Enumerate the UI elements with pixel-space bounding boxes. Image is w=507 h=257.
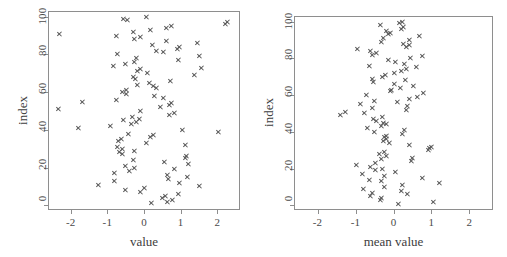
plot-frame-left: [48, 11, 240, 210]
x-tick-mark: [394, 210, 395, 214]
y-tick-label: 80: [37, 45, 48, 65]
x-tick-mark: [469, 210, 470, 214]
y-tick-label: 20: [283, 159, 294, 179]
x-tick-label: 2: [467, 217, 473, 228]
y-axis-title-right: index: [262, 93, 275, 133]
y-tick-label: 60: [283, 86, 294, 106]
y-tick-label: 40: [37, 120, 48, 140]
y-tick-label: 100: [37, 7, 48, 27]
x-tick-label: 0: [391, 217, 397, 228]
x-tick-mark: [356, 210, 357, 214]
y-axis-title-left: index: [16, 90, 29, 130]
y-tick-label: 60: [37, 83, 48, 103]
x-tick-label: 1: [178, 217, 184, 228]
x-tick-mark: [107, 210, 108, 214]
x-tick-mark: [431, 210, 432, 214]
x-tick-mark: [144, 210, 145, 214]
x-axis-title-left: value: [130, 235, 158, 248]
y-tick-label: 80: [283, 49, 294, 69]
x-tick-mark: [181, 210, 182, 214]
x-tick-label: -2: [313, 217, 323, 228]
y-tick-label: 0: [37, 196, 48, 216]
x-tick-mark: [318, 210, 319, 214]
y-tick-label: 0: [283, 196, 294, 216]
x-tick-mark: [217, 210, 218, 214]
y-tick-label: 20: [37, 158, 48, 178]
x-tick-label: -2: [66, 217, 76, 228]
scatter-panel-value: -2-1012020406080100 value index: [0, 0, 253, 257]
scatter-panel-mean-value: -2-1012020406080100 mean value index: [253, 0, 506, 257]
x-tick-label: 1: [429, 217, 435, 228]
x-tick-label: -1: [103, 217, 113, 228]
x-axis-title-right: mean value: [364, 235, 424, 248]
figure-container: -2-1012020406080100 value index -2-10120…: [0, 0, 507, 257]
x-tick-label: 2: [214, 217, 220, 228]
y-tick-label: 40: [283, 122, 294, 142]
x-tick-label: -1: [351, 217, 361, 228]
y-tick-label: 100: [283, 12, 294, 32]
plot-frame-right: [294, 16, 493, 210]
x-tick-mark: [71, 210, 72, 214]
x-tick-label: 0: [141, 217, 147, 228]
